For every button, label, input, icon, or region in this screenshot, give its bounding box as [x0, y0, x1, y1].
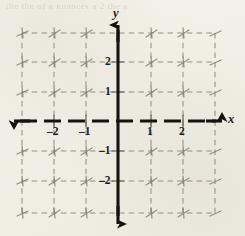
x-tick-label-neg-2: –2: [47, 125, 59, 137]
coordinate-grid-plot: [0, 0, 245, 236]
y-tick-label-neg-1: –1: [99, 144, 111, 156]
x-tick-label-pos-1: 1: [147, 125, 153, 137]
x-tick-label-pos-2: 2: [179, 125, 185, 137]
coordinate-plane-figure: the the of a nuances a 2 the a: [0, 0, 245, 236]
y-tick-label-neg-2: –2: [99, 174, 111, 186]
x-axis-label: x: [228, 112, 234, 127]
y-tick-label-pos-1: 1: [105, 85, 111, 97]
y-axis-label: y: [113, 6, 119, 21]
y-tick-label-pos-2: 2: [105, 55, 111, 67]
x-tick-label-neg-1: –1: [79, 125, 91, 137]
